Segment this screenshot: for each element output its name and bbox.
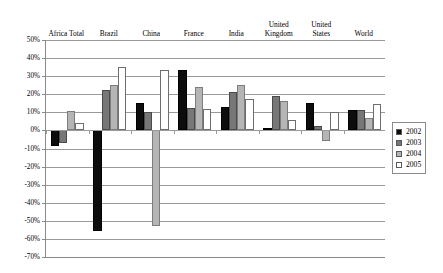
bar-world-2003 bbox=[357, 110, 365, 131]
y-axis-tick bbox=[42, 112, 46, 113]
y-axis-tick-label: -40% bbox=[24, 199, 40, 207]
y-axis-tick bbox=[42, 149, 46, 150]
legend-label: 2005 bbox=[406, 159, 421, 170]
bar-brazil-2002 bbox=[93, 130, 101, 230]
legend-label: 2003 bbox=[406, 137, 421, 148]
bar-united-states-2005 bbox=[330, 112, 338, 130]
y-axis-tick bbox=[42, 76, 46, 77]
bar-united-kingdom-2004 bbox=[280, 101, 288, 130]
gridline bbox=[46, 76, 385, 77]
gridline bbox=[46, 40, 385, 41]
category-label-india: India bbox=[215, 29, 258, 38]
bar-chart: Africa TotalBrazilChinaFranceIndiaUnited… bbox=[0, 0, 443, 273]
bar-france-2002 bbox=[178, 70, 186, 131]
bar-brazil-2005 bbox=[118, 67, 126, 130]
zero-baseline bbox=[46, 130, 385, 131]
bar-india-2004 bbox=[237, 85, 245, 130]
y-axis-tick-label: 30% bbox=[27, 72, 40, 80]
bar-united-states-2002 bbox=[306, 103, 314, 130]
bar-united-kingdom-2003 bbox=[272, 96, 280, 130]
legend-item-2003[interactable]: 2003 bbox=[396, 137, 421, 148]
gridline bbox=[46, 94, 385, 95]
gridline bbox=[46, 239, 385, 240]
bar-india-2002 bbox=[221, 107, 229, 131]
legend-label: 2004 bbox=[406, 148, 421, 159]
legend-swatch-icon bbox=[396, 129, 402, 135]
chart-bottom-rule bbox=[45, 257, 385, 258]
category-label-united-kingdom: United Kingdom bbox=[258, 20, 301, 38]
y-axis-tick-label: -70% bbox=[24, 253, 40, 261]
bar-china-2003 bbox=[144, 112, 152, 130]
legend: 2002200320042005 bbox=[392, 122, 426, 174]
y-axis-tick bbox=[42, 221, 46, 222]
y-axis-tick-label: -60% bbox=[24, 235, 40, 243]
bar-africa-total-2002 bbox=[51, 130, 59, 145]
bar-brazil-2004 bbox=[110, 85, 118, 130]
category-label-world: World bbox=[343, 29, 386, 38]
bar-africa-total-2005 bbox=[75, 123, 83, 130]
bar-india-2005 bbox=[245, 99, 253, 131]
bar-world-2005 bbox=[373, 104, 381, 130]
y-axis-tick bbox=[42, 40, 46, 41]
y-axis-tick bbox=[42, 185, 46, 186]
legend-item-2002[interactable]: 2002 bbox=[396, 126, 421, 137]
bar-china-2005 bbox=[160, 70, 168, 131]
category-label-africa-total: Africa Total bbox=[45, 29, 88, 38]
bar-world-2002 bbox=[348, 110, 356, 131]
y-axis-tick bbox=[42, 94, 46, 95]
y-axis-tick-label: -10% bbox=[24, 145, 40, 153]
y-axis-tick-label: 10% bbox=[27, 108, 40, 116]
category-label-china: China bbox=[130, 29, 173, 38]
bar-brazil-2003 bbox=[102, 90, 110, 131]
category-label-united-states: United States bbox=[300, 20, 343, 38]
bar-china-2004 bbox=[152, 130, 160, 226]
bar-united-states-2004 bbox=[322, 130, 330, 141]
y-axis-tick-label: 50% bbox=[27, 36, 40, 44]
legend-swatch-icon bbox=[396, 151, 402, 157]
legend-label: 2002 bbox=[406, 126, 421, 137]
bar-france-2004 bbox=[195, 87, 203, 130]
bar-africa-total-2004 bbox=[67, 111, 75, 130]
y-axis-tick bbox=[42, 239, 46, 240]
bar-china-2002 bbox=[136, 103, 144, 130]
bar-united-kingdom-2005 bbox=[288, 120, 296, 131]
y-axis-tick bbox=[42, 203, 46, 204]
y-axis-tick bbox=[42, 58, 46, 59]
category-axis-labels: Africa TotalBrazilChinaFranceIndiaUnited… bbox=[45, 0, 385, 40]
plot-area: 50%40%30%20%10%0%-10%-20%-30%-40%-50%-60… bbox=[45, 40, 385, 257]
y-axis-tick-label: -20% bbox=[24, 163, 40, 171]
legend-swatch-icon bbox=[396, 162, 402, 168]
y-axis-tick-label: -50% bbox=[24, 217, 40, 225]
gridline bbox=[46, 58, 385, 59]
bar-india-2003 bbox=[229, 92, 237, 131]
y-axis-tick bbox=[42, 167, 46, 168]
y-axis-tick-label: 0% bbox=[30, 126, 40, 134]
legend-item-2004[interactable]: 2004 bbox=[396, 148, 421, 159]
y-axis-tick-label: -30% bbox=[24, 181, 40, 189]
y-axis-tick-label: 40% bbox=[27, 54, 40, 62]
y-axis-tick-label: 20% bbox=[27, 90, 40, 98]
category-label-france: France bbox=[173, 29, 216, 38]
legend-item-2005[interactable]: 2005 bbox=[396, 159, 421, 170]
bar-france-2003 bbox=[187, 108, 195, 131]
bar-france-2005 bbox=[203, 109, 211, 131]
legend-swatch-icon bbox=[396, 140, 402, 146]
category-label-brazil: Brazil bbox=[88, 29, 131, 38]
bar-world-2004 bbox=[365, 118, 373, 131]
bar-africa-total-2003 bbox=[59, 130, 67, 143]
